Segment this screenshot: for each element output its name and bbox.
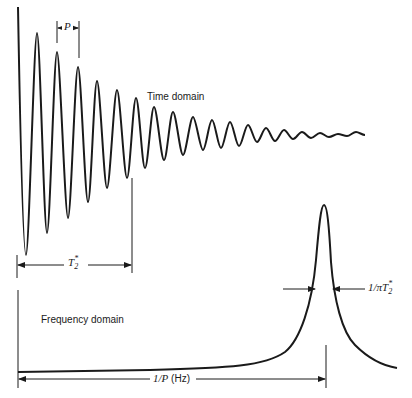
inverse-period-label: 1/P (Hz) (151, 372, 192, 384)
inverse-period-unit: (Hz) (168, 373, 190, 384)
inverse-period-prefix: 1/ (153, 372, 162, 384)
linewidth-prefix: 1/ (368, 281, 377, 293)
fid-spectrum-diagram: P Time domain T*2 1/πT*2 Frequency domai… (0, 0, 412, 398)
fid-waveform (18, 7, 365, 255)
period-label: P (62, 20, 73, 32)
linewidth-label: 1/πT*2 (368, 281, 392, 293)
time-domain-label: Time domain (147, 91, 204, 102)
frequency-domain-label: Frequency domain (41, 314, 124, 325)
t2-star-label: T*2 (66, 256, 80, 268)
diagram-graphics (0, 0, 412, 398)
t2-sub: 2 (74, 262, 78, 271)
linewidth-sub: 2 (388, 287, 392, 296)
